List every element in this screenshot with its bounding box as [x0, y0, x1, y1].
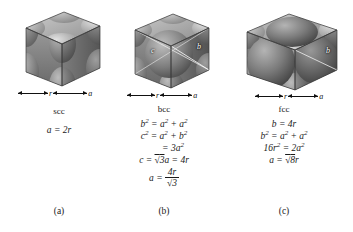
fcc-equation-line-3: 16r2 = 2a2 — [215, 142, 353, 154]
scc-dimension-a — [53, 93, 87, 94]
fcc-eq3-lhs: 16r — [264, 143, 277, 153]
scc-eq1-lhs: a — [47, 125, 52, 135]
fcc-eq2-term1-sup: 2 — [285, 129, 289, 137]
bcc-eq5-lhs: a — [149, 173, 154, 183]
fcc-equation-line-2: b2 = a2 + a2 — [215, 130, 353, 142]
arrow-icon — [53, 93, 87, 94]
bcc-eq2-operator: = — [151, 131, 157, 141]
fcc-dimension-a — [288, 96, 318, 97]
bcc-structure-name: bcc — [105, 104, 223, 114]
fcc-dimension-row: r a — [255, 92, 324, 101]
fcc-eq3-lhs-sup: 2 — [277, 141, 281, 149]
bcc-dimension-a-label: a — [192, 91, 198, 100]
arrow-icon — [160, 95, 192, 96]
bcc-eq1-term2-sup: 2 — [184, 117, 188, 125]
bcc-equation-line-2: c2 = a2 + b2 — [105, 130, 223, 142]
fcc-diagonal-label-b: b — [326, 46, 330, 55]
bcc-cube-svg — [119, 6, 215, 102]
scc-dimension-r — [18, 93, 48, 94]
bcc-eq2-lhs-sup: 2 — [145, 129, 149, 137]
bcc-diagonal-label-b: b — [197, 42, 201, 51]
bcc-eq3-operator: = — [162, 143, 168, 153]
panel-fcc: b r a fcc b = 4r b2 = a2 — [215, 0, 353, 232]
fcc-eq2-plus: + — [291, 131, 297, 141]
arrow-icon — [255, 96, 283, 97]
bcc-eq4-operator: = — [146, 155, 152, 165]
bcc-eq5-denominator: √3 — [165, 177, 179, 188]
bcc-eq2-term1-sup: 2 — [164, 129, 168, 137]
scc-equation-line-1: a = 2r — [0, 124, 118, 136]
scc-cube-svg — [12, 6, 104, 98]
bcc-eq5-den-radical: √3 — [167, 178, 177, 188]
body-centered-cubic-cell-diagram: c b r a — [119, 6, 215, 102]
crystal-structure-figure: r a scc a = 2r (a) — [0, 0, 353, 232]
bcc-equation-line-3: = 3a2 — [105, 142, 223, 154]
panel-letter-c: (c) — [215, 206, 353, 216]
panel-letter-a: (a) — [0, 206, 118, 216]
bcc-eq5-den-radicand: 3 — [172, 178, 177, 188]
fcc-eq1-rhs: 4r — [288, 119, 296, 129]
arrow-icon — [288, 96, 318, 97]
bcc-eq4-after: a — [164, 155, 169, 165]
bcc-equation-line-5: a = 4r √3 — [105, 168, 223, 189]
fcc-eq2-lhs-sup: 2 — [265, 129, 269, 137]
bcc-equation-line-4: c = √3a = 4r — [105, 154, 223, 166]
bcc-eq5-operator: = — [156, 173, 162, 183]
bcc-eq1-operator: = — [151, 119, 157, 129]
fcc-eq1-lhs: b — [272, 119, 277, 129]
fcc-eq4-lhs: a — [269, 155, 274, 165]
scc-dimension-row: r a — [18, 89, 93, 98]
panel-scc: r a scc a = 2r (a) — [0, 0, 118, 232]
fcc-eq4-operator: = — [276, 155, 282, 165]
bcc-eq1-lhs-sup: 2 — [145, 117, 149, 125]
fcc-equations: b = 4r b2 = a2 + a2 16r2 = 2a2 a = √8r — [215, 118, 353, 166]
bcc-eq4-radical: √3 — [155, 155, 165, 165]
bcc-eq3-rhs-sup: 2 — [180, 141, 184, 149]
arrow-icon — [18, 93, 48, 94]
fcc-dimension-a-label: a — [318, 92, 324, 101]
bcc-eq5-fraction: 4r √3 — [165, 167, 179, 188]
arrow-icon — [127, 95, 155, 96]
fcc-eq4-after: r — [295, 155, 299, 165]
bcc-dimension-r — [127, 95, 155, 96]
panel-letter-b: (b) — [105, 206, 223, 216]
fcc-eq2-operator: = — [271, 131, 277, 141]
scc-eq1-rhs: 2r — [63, 125, 71, 135]
bcc-eq1-term1-sup: 2 — [165, 117, 169, 125]
fcc-eq4-radical: √8 — [285, 155, 295, 165]
bcc-eq4-lhs: c — [139, 155, 143, 165]
fcc-dimension-r — [255, 96, 283, 97]
bcc-diagonal-label-c: c — [151, 46, 155, 55]
fcc-eq1-operator: = — [279, 119, 285, 129]
fcc-eq3-operator: = — [283, 143, 289, 153]
bcc-dimension-a — [160, 95, 192, 96]
bcc-dimension-row: r a — [127, 91, 198, 100]
bcc-eq3-rhs: 3a — [171, 143, 181, 153]
bcc-eq4-rhs: 4r — [180, 155, 188, 165]
face-centered-cubic-cell-diagram: b r a — [233, 6, 345, 102]
simple-cubic-cell-diagram: r a — [12, 6, 104, 98]
scc-eq1-operator: = — [54, 125, 60, 135]
bcc-eq1-plus: + — [171, 119, 177, 129]
bcc-equations: b2 = a2 + a2 c2 = a2 + b2 = 3a2 c = √3a — [105, 118, 223, 189]
scc-dimension-a-label: a — [87, 89, 93, 98]
scc-structure-name: scc — [0, 106, 118, 116]
fcc-eq2-term2-sup: 2 — [304, 129, 308, 137]
bcc-eq2-plus: + — [170, 131, 176, 141]
bcc-eq2-term2-sup: 2 — [184, 129, 188, 137]
fcc-equation-line-4: a = √8r — [215, 154, 353, 166]
bcc-eq5-numerator: 4r — [165, 167, 179, 177]
fcc-structure-name: fcc — [215, 104, 353, 114]
bcc-eq4-operator-2: = — [172, 155, 178, 165]
scc-equations: a = 2r — [0, 124, 118, 136]
fcc-eq3-rhs: 2a — [291, 143, 301, 153]
panel-bcc: c b r a bcc b2 = a2 + a2 — [105, 0, 223, 232]
fcc-eq3-rhs-sup: 2 — [301, 141, 305, 149]
